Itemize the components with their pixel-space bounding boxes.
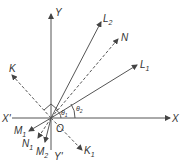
- ray-l2: [51, 22, 101, 118]
- diagram: Y X X' Y' O L2 N L1 K K1 M1 N1 M2 θ1 θ2: [0, 0, 181, 163]
- label-x: X: [171, 113, 179, 124]
- label-m1: M1: [14, 125, 26, 138]
- label-n: N: [121, 32, 129, 43]
- ray-k: [12, 75, 51, 118]
- label-l2: L2: [103, 13, 113, 26]
- label-y-neg: Y': [54, 151, 64, 162]
- label-theta1: θ1: [61, 109, 68, 118]
- ray-m1: [29, 118, 51, 131]
- label-l1: L1: [140, 59, 150, 72]
- angle-arc-theta2: [71, 104, 75, 118]
- label-x-neg: X': [1, 113, 12, 124]
- label-n1: N1: [22, 138, 33, 151]
- label-origin: O: [56, 123, 64, 134]
- label-y: Y: [55, 7, 63, 18]
- ray-m2: [45, 118, 51, 142]
- label-k: K: [9, 63, 17, 74]
- label-k1: K1: [84, 145, 95, 158]
- label-m2: M2: [36, 146, 48, 159]
- ray-n1: [38, 118, 51, 138]
- label-theta2: θ2: [76, 105, 83, 114]
- ray-n: [51, 39, 118, 118]
